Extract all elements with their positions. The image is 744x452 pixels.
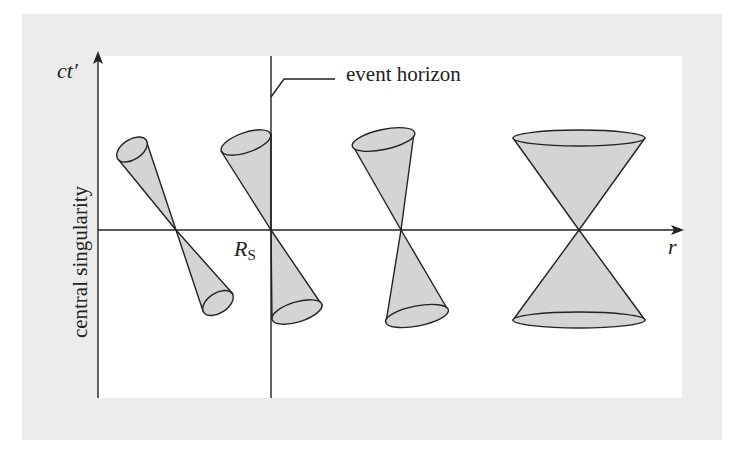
schwarzschild-radius-label: RS — [234, 236, 256, 264]
plot-area — [98, 56, 682, 398]
x-axis-label: r — [668, 234, 677, 260]
event-horizon-label: event horizon — [346, 62, 461, 87]
central-singularity-label: central singularity — [68, 186, 93, 338]
rs-subscript: S — [247, 247, 255, 263]
rs-main: R — [234, 236, 247, 261]
y-axis-label: ct′ — [57, 58, 78, 84]
